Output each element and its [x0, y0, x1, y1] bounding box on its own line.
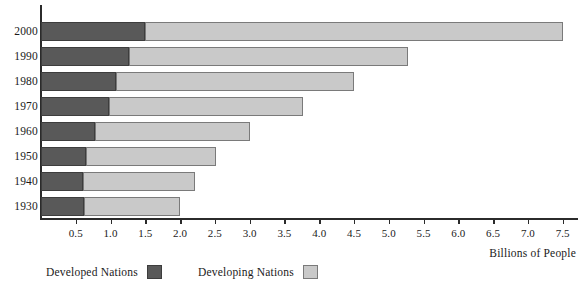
legend-swatch-developed-icon — [147, 265, 162, 279]
bar-segment-developed — [41, 122, 95, 141]
y-axis-label-1990: 1990 — [0, 47, 38, 66]
y-axis-label-1940: 1940 — [0, 172, 38, 191]
x-axis-tick — [319, 218, 320, 224]
bar-segment-developed — [41, 72, 116, 91]
x-axis-tick — [215, 218, 216, 224]
x-axis-tick — [111, 218, 112, 224]
y-axis-label-1980: 1980 — [0, 72, 38, 91]
y-axis-label-2000: 2000 — [0, 22, 38, 41]
y-axis-label-1960: 1960 — [0, 122, 38, 141]
bar-row — [41, 97, 303, 116]
bar-segment-developing — [95, 122, 250, 141]
x-axis-tick — [76, 218, 77, 224]
bar-row — [41, 47, 408, 66]
legend-item-developing: Developing Nations — [198, 262, 318, 282]
bar-row — [41, 122, 250, 141]
legend-label-developed: Developed Nations — [46, 266, 138, 278]
bar-row — [41, 197, 180, 216]
x-axis-title: Billions of People — [489, 247, 576, 259]
x-axis-tick — [493, 218, 494, 224]
bar-row — [41, 72, 354, 91]
y-axis-label-1930: 1930 — [0, 197, 38, 216]
bar-segment-developed — [41, 197, 84, 216]
x-axis-tick — [458, 218, 459, 224]
bar-segment-developing — [84, 197, 180, 216]
bar-row — [41, 147, 216, 166]
x-axis-tick — [180, 218, 181, 224]
bar-segment-developed — [41, 47, 129, 66]
bar-segment-developed — [41, 22, 145, 41]
y-axis-label-1950: 1950 — [0, 147, 38, 166]
bar-segment-developed — [41, 172, 83, 191]
x-axis-tick — [250, 218, 251, 224]
clipped-chart-title — [120, 0, 480, 2]
x-axis-tick — [284, 218, 285, 224]
x-axis-line — [40, 218, 578, 220]
x-axis-tick — [424, 218, 425, 224]
plot-area: 0.51.01.52.02.53.03.54.04.55.05.56.06.57… — [41, 5, 578, 218]
bar-row — [41, 172, 195, 191]
legend-swatch-developing-icon — [303, 265, 318, 279]
legend-label-developing: Developing Nations — [198, 266, 294, 278]
bar-row — [41, 22, 563, 41]
population-stacked-bar-chart: 0.51.01.52.02.53.03.54.04.55.05.56.06.57… — [0, 0, 586, 294]
bar-segment-developing — [116, 72, 354, 91]
bar-segment-developing — [86, 147, 216, 166]
y-axis-label-1970: 1970 — [0, 97, 38, 116]
bar-segment-developing — [109, 97, 303, 116]
bar-segment-developing — [145, 22, 562, 41]
x-axis-tick — [145, 218, 146, 224]
x-axis-tick — [528, 218, 529, 224]
legend-item-developed: Developed Nations — [46, 262, 162, 282]
x-axis-tick — [563, 218, 564, 224]
x-axis-tick — [389, 218, 390, 224]
bar-segment-developing — [129, 47, 408, 66]
bar-segment-developed — [41, 97, 109, 116]
bar-segment-developing — [83, 172, 195, 191]
bar-segment-developed — [41, 147, 86, 166]
x-axis-tick — [354, 218, 355, 224]
x-axis-tick-label: 7.5 — [543, 227, 583, 239]
